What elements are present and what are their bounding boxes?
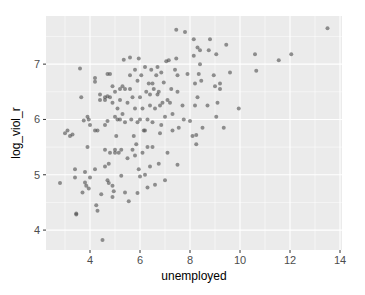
data-point (96, 209, 100, 213)
data-point (98, 98, 102, 102)
data-point (177, 126, 181, 130)
data-point (174, 57, 178, 61)
data-point (207, 48, 211, 52)
data-point (289, 52, 293, 56)
data-point (86, 145, 90, 149)
data-point (151, 81, 155, 85)
data-point (138, 174, 142, 178)
data-point (123, 120, 127, 124)
data-point (78, 67, 82, 71)
data-point (188, 119, 192, 123)
data-point (93, 167, 97, 171)
data-point (214, 52, 218, 56)
data-point (111, 195, 115, 199)
data-point (181, 104, 185, 108)
data-point (182, 117, 186, 121)
data-point (186, 72, 190, 76)
data-point (66, 129, 70, 133)
data-point (58, 181, 62, 185)
data-point (148, 104, 152, 108)
data-point (192, 37, 196, 41)
data-point (127, 199, 131, 203)
data-point (171, 129, 175, 133)
data-point (73, 176, 77, 180)
scatter-chart: 468101214 4567 unemployed log_viol_r (0, 0, 365, 295)
data-point (88, 176, 92, 180)
data-point (168, 101, 172, 105)
x-tick-label: 4 (87, 254, 93, 266)
data-point (277, 58, 281, 62)
data-point (194, 142, 198, 146)
data-point (137, 167, 141, 171)
data-point (176, 163, 180, 167)
data-point (103, 164, 107, 168)
data-point (88, 123, 92, 127)
data-point (83, 170, 87, 174)
data-point (163, 178, 167, 182)
data-point (141, 151, 145, 155)
data-point (198, 62, 202, 66)
data-point (79, 95, 83, 99)
data-point (141, 106, 145, 110)
data-point (87, 187, 91, 191)
data-point (146, 145, 150, 149)
data-point (138, 95, 142, 99)
data-point (136, 79, 140, 83)
data-point (153, 183, 157, 187)
data-point (133, 68, 137, 72)
data-point (151, 120, 155, 124)
data-point (99, 192, 103, 196)
data-point (136, 191, 140, 195)
data-point (123, 190, 127, 194)
data-point (116, 106, 120, 110)
data-point (143, 65, 147, 69)
data-point (143, 129, 147, 133)
data-point (133, 153, 137, 157)
data-point (216, 101, 220, 105)
y-axis-title: log_viol_r (9, 107, 23, 158)
data-point (128, 87, 132, 91)
data-point (228, 70, 232, 74)
data-point (113, 151, 117, 155)
data-point (87, 117, 91, 121)
data-point (108, 95, 112, 99)
data-point (93, 76, 97, 80)
data-point (193, 104, 197, 108)
data-point (171, 112, 175, 116)
data-point (193, 81, 197, 85)
data-point (82, 119, 86, 123)
y-tick-label: 5 (34, 169, 40, 181)
data-point (126, 156, 130, 160)
data-point (326, 26, 330, 30)
data-point (81, 190, 85, 194)
data-point (93, 80, 97, 84)
data-point (132, 134, 136, 138)
data-point (134, 142, 138, 146)
data-point (98, 93, 102, 97)
data-point (151, 145, 155, 149)
data-point (108, 151, 112, 155)
data-point (212, 73, 216, 77)
x-axis-title: unemployed (161, 269, 226, 283)
y-tick-label: 6 (34, 113, 40, 125)
data-point (111, 184, 115, 188)
data-point (222, 126, 226, 130)
data-point (166, 151, 170, 155)
data-point (144, 90, 148, 94)
x-tick-label: 8 (187, 254, 193, 266)
data-point (198, 48, 202, 52)
data-point (138, 117, 142, 121)
data-point (237, 106, 241, 110)
data-point (122, 58, 126, 62)
data-point (206, 104, 210, 108)
data-point (111, 101, 115, 105)
data-point (197, 72, 201, 76)
x-tick-label: 14 (334, 254, 346, 266)
data-point (131, 95, 135, 99)
data-point (199, 79, 203, 83)
data-point (143, 173, 147, 177)
data-point (192, 54, 196, 58)
data-point (103, 148, 107, 152)
data-point (159, 70, 163, 74)
data-point (71, 132, 75, 136)
